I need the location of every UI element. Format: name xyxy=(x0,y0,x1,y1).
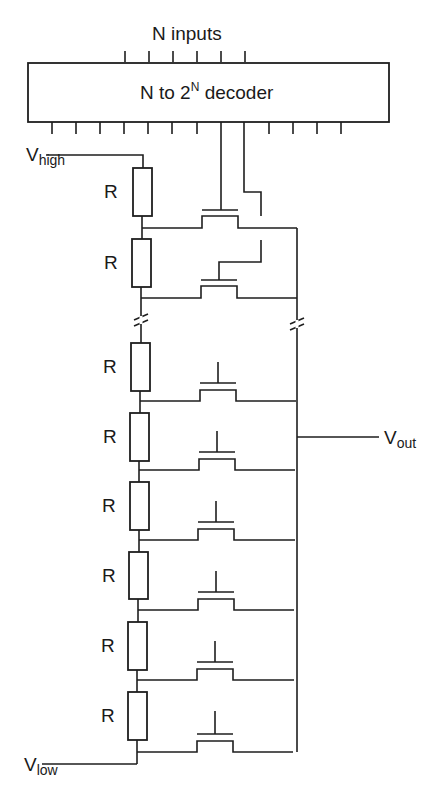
transistor-8 xyxy=(137,711,293,752)
resistor-string-dac-diagram: N inputs N to 2N decoder Vhigh R xyxy=(0,0,433,794)
resistor-3 xyxy=(131,343,150,391)
transistor-7 xyxy=(137,641,294,680)
resistor-5-label: R xyxy=(102,495,116,516)
decoder-output-line-2-lower xyxy=(219,240,261,280)
decoder-output-line-2-upper xyxy=(244,122,261,216)
resistor-4-label: R xyxy=(103,426,117,447)
transistor-6 xyxy=(138,571,294,610)
resistor-7-label: R xyxy=(101,635,115,656)
transistor-2 xyxy=(141,280,297,298)
vout-label: Vout xyxy=(384,427,416,451)
resistor-string: R R R R R R R R xyxy=(101,168,152,764)
resistor-2 xyxy=(132,239,151,287)
inputs-label: N inputs xyxy=(152,23,222,44)
decoder-title: N to 2N decoder xyxy=(140,80,274,103)
transistor-4 xyxy=(139,431,295,470)
transistor-5 xyxy=(139,501,295,540)
resistor-4 xyxy=(130,413,149,461)
resistor-8 xyxy=(128,692,147,740)
resistor-7 xyxy=(128,622,147,670)
resistor-2-label: R xyxy=(104,252,118,273)
decoder-output-ticks xyxy=(52,122,341,134)
transistor-3 xyxy=(140,362,296,401)
resistor-3-label: R xyxy=(103,356,117,377)
decoder-input-ticks xyxy=(125,51,245,62)
resistor-5 xyxy=(130,482,149,530)
resistor-6-label: R xyxy=(102,565,116,586)
vlow-label: Vlow xyxy=(24,754,59,778)
resistor-8-label: R xyxy=(101,705,115,726)
transistor-1 xyxy=(142,210,297,228)
transistor-switches xyxy=(137,210,297,752)
vhigh-label: Vhigh xyxy=(26,144,65,168)
resistor-1 xyxy=(133,168,152,216)
resistor-6 xyxy=(129,552,148,599)
resistor-1-label: R xyxy=(104,181,118,202)
